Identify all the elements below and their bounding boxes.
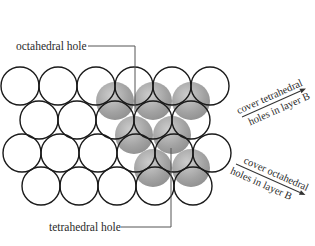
layer-a-circle xyxy=(39,67,77,105)
close-packing-diagram: octahedral hole tetrahedral hole cover t… xyxy=(0,0,315,246)
layer-a-circle xyxy=(98,167,136,205)
layer-b-spheres xyxy=(96,82,210,187)
layer-a-circle xyxy=(3,134,41,172)
cover-tetrahedral-annotation: cover tetrahedral holes in layer B xyxy=(235,77,312,130)
layer-a-circle xyxy=(41,134,79,172)
octahedral-hole-label: octahedral hole xyxy=(16,40,87,52)
layer-a-circle xyxy=(20,101,58,139)
layer-b-sphere xyxy=(134,149,172,187)
layer-a-circle xyxy=(22,167,60,205)
layer-a-circle xyxy=(58,101,96,139)
layer-a-circle xyxy=(1,67,39,105)
layer-a-circle xyxy=(60,167,98,205)
tetrahedral-hole-label: tetrahedral hole xyxy=(49,221,121,233)
cover-octahedral-annotation: cover octahedral holes in layer B xyxy=(229,151,311,206)
layer-a-circle xyxy=(79,134,117,172)
layer-b-sphere xyxy=(172,149,210,187)
